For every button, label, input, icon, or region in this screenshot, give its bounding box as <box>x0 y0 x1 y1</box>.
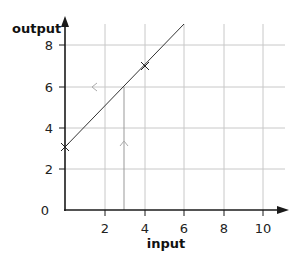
x-tick-label: 4 <box>141 221 149 236</box>
x-tick-labels: 2 4 6 8 10 <box>101 221 271 236</box>
guide-lines <box>92 83 128 210</box>
y-tick-label: 8 <box>45 38 53 53</box>
x-axis-label: input <box>147 236 186 251</box>
x-tick-label: 10 <box>255 221 272 236</box>
y-axis-arrow-icon <box>61 16 69 27</box>
x-ticks <box>105 210 263 216</box>
y-tick-label: 0 <box>41 203 49 218</box>
x-tick-label: 8 <box>220 221 228 236</box>
x-axis-arrow-icon <box>277 206 289 214</box>
axes <box>61 16 289 214</box>
x-tick-label: 6 <box>180 221 188 236</box>
y-tick-label: 2 <box>45 162 53 177</box>
horizontal-gridlines <box>65 45 285 169</box>
vertical-gridlines <box>105 24 263 210</box>
x-tick-label: 2 <box>101 221 109 236</box>
y-tick-label: 6 <box>45 80 53 95</box>
y-tick-label: 4 <box>45 121 53 136</box>
y-tick-labels: 0 2 4 6 8 <box>41 38 53 218</box>
y-axis-label: output <box>12 21 61 36</box>
chart: 2 4 6 8 10 0 2 4 6 8 output input <box>0 0 301 259</box>
